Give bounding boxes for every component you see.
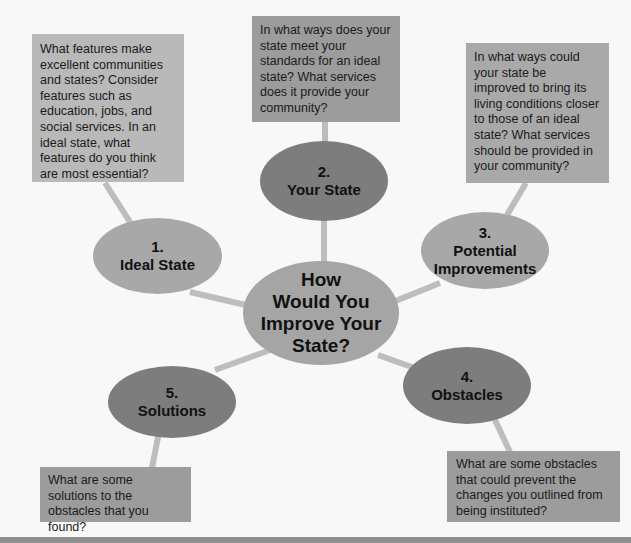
node-obstacles: 4. Obstacles	[403, 347, 531, 424]
prompt-text: In what ways could your state be improve…	[474, 50, 599, 173]
prompt-box-solutions: What are some solutions to the obstacles…	[40, 467, 191, 522]
node-your-state: 2. Your State	[260, 141, 388, 221]
node-number: 2.	[318, 163, 331, 181]
node-ideal-state: 1. Ideal State	[93, 218, 222, 294]
central-line-4: State?	[292, 335, 350, 357]
node-title: Ideal State	[120, 256, 195, 274]
prompt-box-potential-improvements: In what ways could your state be improve…	[466, 43, 609, 183]
prompt-text: What features make excellent communities…	[40, 42, 163, 181]
node-number: 3.	[479, 224, 492, 242]
node-solutions: 5. Solutions	[108, 366, 236, 438]
node-number: 4.	[461, 368, 474, 386]
node-title-line1: Potential	[453, 242, 516, 260]
prompt-box-your-state: In what ways does your state meet your s…	[252, 16, 400, 122]
prompt-text: In what ways does your state meet your s…	[260, 23, 391, 115]
prompt-text: What are some obstacles that could preve…	[456, 457, 603, 518]
node-title: Solutions	[138, 402, 206, 420]
central-line-1: How	[301, 269, 341, 291]
node-title: Obstacles	[431, 386, 503, 404]
node-title-line2: Improvements	[434, 260, 537, 278]
node-number: 1.	[151, 238, 164, 256]
node-potential-improvements: 3. Potential Improvements	[421, 212, 549, 289]
footer-band	[0, 537, 631, 543]
central-line-2: Would You	[272, 291, 369, 313]
node-number: 5.	[166, 384, 179, 402]
node-title: Your State	[287, 181, 361, 199]
central-question: How Would You Improve Your State?	[243, 261, 399, 365]
prompt-box-ideal-state: What features make excellent communities…	[32, 34, 184, 182]
prompt-box-obstacles: What are some obstacles that could preve…	[447, 451, 620, 522]
central-line-3: Improve Your	[261, 313, 382, 335]
